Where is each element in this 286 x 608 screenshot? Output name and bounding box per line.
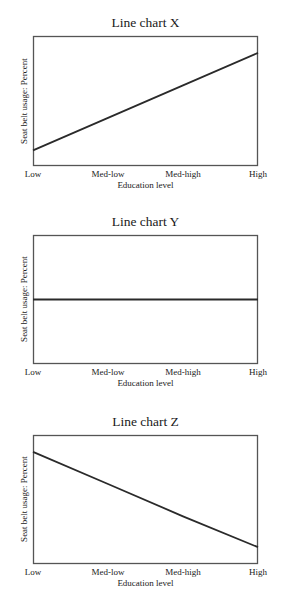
x-tick-label: Low bbox=[25, 367, 42, 377]
data-line bbox=[33, 452, 258, 547]
x-tick-label: Low bbox=[25, 567, 42, 577]
x-tick-label: Med-low bbox=[92, 169, 125, 179]
plot-area bbox=[33, 235, 258, 364]
chart-title: Line chart Y bbox=[33, 214, 258, 230]
chart-title: Line chart X bbox=[33, 15, 258, 31]
x-tick-label: Low bbox=[25, 169, 42, 179]
chart-title: Line chart Z bbox=[33, 414, 258, 430]
x-tick-label: Med-low bbox=[92, 567, 125, 577]
line-plot-svg bbox=[33, 235, 258, 364]
x-axis-label: Education level bbox=[33, 378, 258, 388]
x-tick-label: High bbox=[249, 169, 267, 179]
x-tick-label: Med-high bbox=[165, 567, 201, 577]
line-plot-svg bbox=[33, 36, 258, 166]
y-axis-label: Seat belt usage: Percent bbox=[19, 439, 29, 559]
data-line bbox=[33, 53, 258, 150]
y-axis-label: Seat belt usage: Percent bbox=[19, 41, 29, 161]
x-tick-label: Med-low bbox=[92, 367, 125, 377]
x-tick-label: High bbox=[249, 367, 267, 377]
plot-area bbox=[33, 435, 258, 564]
plot-area bbox=[33, 36, 258, 166]
x-tick-label: Med-high bbox=[165, 169, 201, 179]
chart-x-panel: Line chart X Seat belt usage: Percent Lo… bbox=[0, 0, 286, 200]
chart-z-panel: Line chart Z Seat belt usage: Percent Lo… bbox=[0, 399, 286, 599]
x-axis-label: Education level bbox=[33, 578, 258, 588]
x-tick-label: Med-high bbox=[165, 367, 201, 377]
x-axis-label: Education level bbox=[33, 180, 258, 190]
chart-y-panel: Line chart Y Seat belt usage: Percent Lo… bbox=[0, 199, 286, 399]
line-plot-svg bbox=[33, 435, 258, 564]
y-axis-label: Seat belt usage: Percent bbox=[19, 239, 29, 359]
x-tick-label: High bbox=[249, 567, 267, 577]
